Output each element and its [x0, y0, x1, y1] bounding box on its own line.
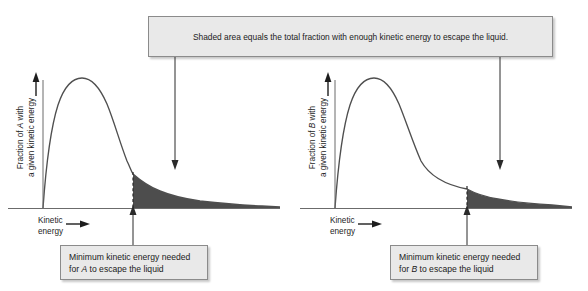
callout-a-suffix: to escape the liquid — [87, 264, 163, 274]
chart-a-callout-line1: Minimum kinetic energy needed — [69, 251, 199, 263]
figure-canvas: Shaded area equals the total fraction wi… — [0, 0, 588, 291]
chart-b-y-axis-label-line2: a given kinetic energy — [319, 70, 330, 205]
chart-a-curve — [43, 78, 280, 208]
chart-b-x-axis-label: Kinetic energy — [330, 216, 355, 237]
chart-a-y-axis-label-line2: a given kinetic energy — [27, 70, 38, 205]
callout-a-prefix: for — [69, 264, 81, 274]
chart-a-shaded-area — [133, 174, 280, 208]
chart-a-y-axis-label: Fraction of A with a given kinetic energ… — [16, 70, 37, 205]
chart-b-callout-line2: for B to escape the liquid — [399, 263, 529, 275]
callout-b-suffix: to escape the liquid — [417, 264, 493, 274]
chart-b-x-axis-label-line2: energy — [330, 227, 355, 238]
chart-a-x-axis-label: Kinetic energy — [38, 216, 63, 237]
chart-a-x-axis-label-line2: energy — [38, 227, 63, 238]
chart-b-y-axis-label: Fraction of B with a given kinetic energ… — [308, 70, 329, 205]
chart-b-x-axis-arrow — [358, 221, 382, 228]
chart-b-threshold-callout: Minimum kinetic energy needed for B to e… — [390, 245, 538, 280]
y-label-prefix-b: Fraction of — [308, 128, 317, 169]
chart-b-y-axis-label-line1: Fraction of B with — [308, 70, 319, 205]
chart-b-threshold-pointer — [464, 205, 471, 245]
y-label-suffix-b: with — [308, 106, 317, 123]
chart-b-x-axis-label-line1: Kinetic — [330, 216, 355, 227]
chart-a-x-axis-arrow — [66, 221, 90, 228]
y-label-substance-b: B — [308, 123, 317, 128]
chart-a-x-axis-label-line1: Kinetic — [38, 216, 63, 227]
chart-a-threshold-pointer — [130, 205, 137, 245]
chart-a-threshold-callout: Minimum kinetic energy needed for A to e… — [60, 245, 208, 280]
chart-a-callout-line2: for A to escape the liquid — [69, 263, 199, 275]
chart-b-callout-line1: Minimum kinetic energy needed — [399, 251, 529, 263]
y-label-suffix-a: with — [16, 106, 25, 123]
y-label-prefix-a: Fraction of — [16, 128, 25, 169]
chart-b-curve — [335, 78, 572, 208]
callout-b-prefix: for — [399, 264, 411, 274]
chart-a-y-axis-label-line1: Fraction of A with — [16, 70, 27, 205]
y-label-substance-a: A — [16, 123, 25, 128]
